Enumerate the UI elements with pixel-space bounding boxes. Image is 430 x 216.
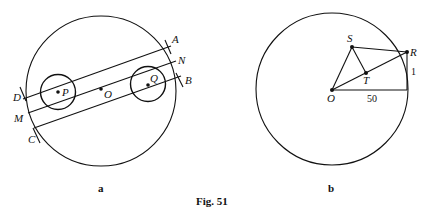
point-p-dot	[56, 90, 60, 94]
point-s-dot	[350, 45, 354, 49]
label-n: N	[177, 54, 186, 66]
segment-st	[352, 47, 366, 73]
segment-or	[332, 52, 407, 90]
tick-a	[165, 40, 171, 54]
label-d: D	[12, 91, 21, 103]
label-q: Q	[150, 72, 158, 84]
label-m: M	[13, 112, 24, 124]
label-s: S	[347, 32, 353, 44]
panel-b-label: b	[328, 182, 334, 194]
point-r-dot	[405, 50, 409, 54]
label-a: A	[171, 33, 179, 45]
line-cb	[34, 76, 181, 128]
measure-1: 1	[411, 66, 416, 77]
segment-sr	[352, 47, 407, 52]
line-mn	[28, 61, 176, 113]
panel-a-label: a	[98, 182, 104, 194]
tick-b	[176, 73, 183, 87]
panel-a	[20, 16, 183, 166]
segment-os	[332, 47, 352, 90]
figure-caption: Fig. 51	[196, 195, 228, 207]
label-t: T	[363, 74, 370, 86]
label-c: C	[28, 133, 36, 145]
label-o: O	[104, 88, 112, 100]
label-b: B	[185, 74, 192, 86]
point-o-dot	[99, 87, 103, 91]
measure-50: 50	[367, 93, 377, 104]
figure-51: A N B D M C P O Q a S R T O 50 1 b Fig. …	[0, 0, 430, 216]
big-circle-a	[26, 16, 176, 166]
label-p: P	[61, 86, 69, 98]
label-o-b: O	[327, 92, 335, 104]
label-r: R	[409, 46, 417, 58]
line-da	[23, 46, 171, 99]
